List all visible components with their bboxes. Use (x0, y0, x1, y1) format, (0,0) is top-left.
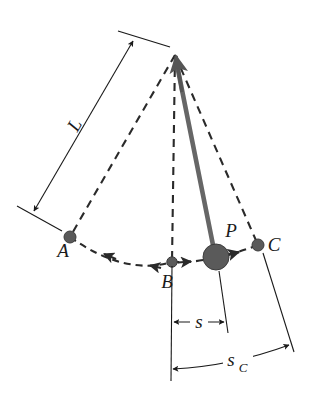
arc-direction-arrow-left-inner (150, 266, 161, 269)
extension-line-from-c (263, 253, 294, 352)
swing-arc-group (70, 237, 258, 268)
rod-group (176, 56, 214, 250)
length-dimension-group: L (17, 31, 170, 231)
string-to-a (70, 55, 175, 237)
swing-arc-left-segment (70, 237, 172, 266)
pendulum-diagram: L A B P C s s (0, 0, 327, 393)
bob-marker-c (252, 239, 264, 251)
label-point-a: A (55, 240, 69, 261)
length-extension-tick-top (118, 31, 170, 47)
string-to-c (175, 55, 258, 245)
arc-direction-arrow-right-inner (178, 262, 191, 263)
length-extension-tick-bottom (17, 206, 62, 231)
label-point-c: C (268, 234, 281, 255)
point-labels-group: A B P C (55, 220, 280, 292)
string-to-b (172, 55, 175, 262)
s-label: s (195, 311, 202, 332)
sc-dimension-group: s C (173, 345, 289, 375)
sc-label-subscript: C (239, 360, 248, 375)
label-point-p: P (224, 220, 237, 241)
bob-marker-b (167, 257, 177, 267)
extension-line-from-p (219, 271, 228, 333)
sc-label: s (227, 349, 234, 370)
s-dimension-group: s (174, 311, 224, 332)
pendulum-figure: L A B P C s s (0, 0, 327, 393)
bob-marker-p (203, 244, 229, 270)
